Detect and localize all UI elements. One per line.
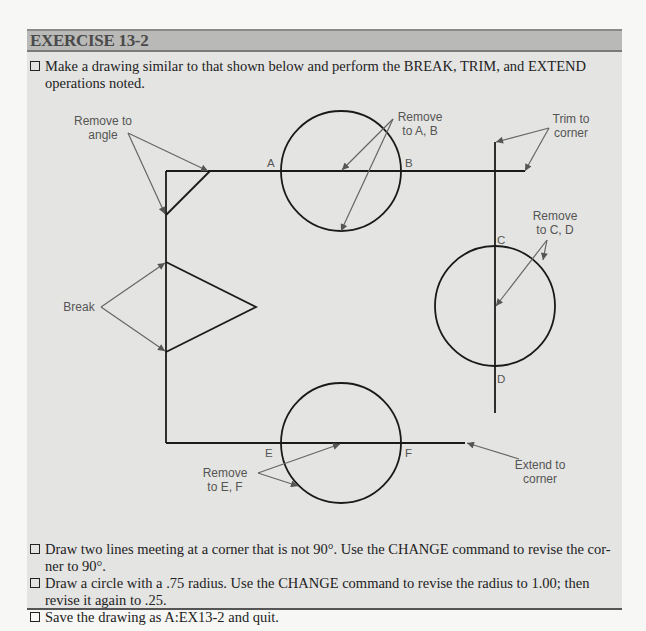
callout-labels: Remove to angle Remove to A, B Trim to c… bbox=[63, 110, 589, 494]
point-d-label: D bbox=[497, 373, 505, 385]
label-remove-to-ab-2: to A, B bbox=[402, 124, 437, 138]
exercise-drawing: Remove to angle Remove to A, B Trim to c… bbox=[0, 0, 646, 631]
label-remove-to-cd-2: to C, D bbox=[536, 223, 574, 237]
break-triangle bbox=[166, 262, 256, 352]
label-remove-to-ef-1: Remove bbox=[203, 466, 248, 480]
label-trim-to-corner-1: Trim to bbox=[553, 112, 590, 126]
point-labels: A B C D E F bbox=[265, 157, 505, 459]
label-remove-to-cd-1: Remove bbox=[533, 209, 578, 223]
drawing-geometry bbox=[166, 111, 555, 503]
label-extend-to-corner-1: Extend to bbox=[515, 458, 566, 472]
leader-arrows bbox=[101, 119, 549, 486]
label-remove-to-angle-1: Remove to bbox=[74, 114, 132, 128]
label-remove-to-angle-2: angle bbox=[88, 128, 118, 142]
angle-line bbox=[166, 171, 210, 215]
label-remove-to-ab-1: Remove bbox=[398, 110, 443, 124]
point-e-label: E bbox=[265, 447, 273, 459]
point-a-label: A bbox=[267, 157, 275, 169]
label-remove-to-ef-2: to E, F bbox=[207, 480, 242, 494]
label-trim-to-corner-2: corner bbox=[554, 126, 588, 140]
label-break: Break bbox=[63, 300, 95, 314]
point-b-label: B bbox=[405, 157, 413, 169]
point-f-label: F bbox=[405, 447, 412, 459]
label-extend-to-corner-2: corner bbox=[523, 472, 557, 486]
point-c-label: C bbox=[497, 234, 505, 246]
